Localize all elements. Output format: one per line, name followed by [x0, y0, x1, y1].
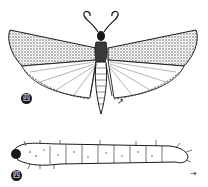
moth-drawing [0, 0, 208, 187]
larva [11, 140, 192, 169]
adult-moth [9, 12, 198, 114]
moth-illustration: 四 ↗ 四 → [0, 0, 208, 187]
arrow-icon: ↗ [117, 98, 124, 106]
adult-figure-label: 四 [21, 93, 32, 104]
larva-figure-label: 四 [11, 170, 22, 181]
arrow-icon: → [190, 170, 197, 178]
